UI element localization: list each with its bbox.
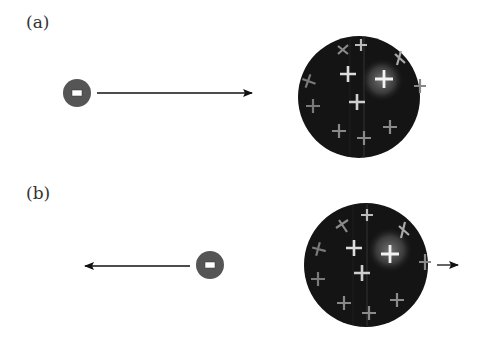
minus-icon (72, 90, 82, 96)
panel-a (63, 36, 426, 158)
electron-a (63, 79, 91, 107)
atom-sphere-b (304, 203, 431, 327)
panel-b (85, 203, 458, 327)
minus-icon (205, 262, 215, 268)
electron-b (196, 251, 224, 279)
diagram-canvas (0, 0, 479, 347)
atom-sphere-a (298, 36, 426, 158)
